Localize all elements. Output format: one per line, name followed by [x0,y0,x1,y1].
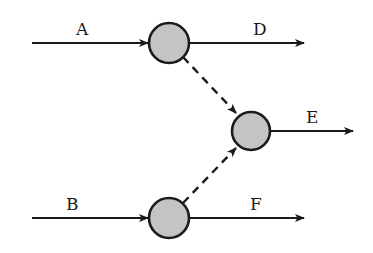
dashed-edge-top-to-middle [183,57,236,113]
flow-diagram: A D B F E [0,0,373,253]
edge-e-label: E [306,107,318,127]
node-top [149,23,189,63]
edge-d: D [189,19,304,43]
node-middle [232,112,270,150]
edge-a-label: A [75,19,89,39]
edge-d-label: D [253,19,267,39]
edge-f: F [189,194,304,218]
edge-e: E [270,107,353,131]
edge-b-label: B [66,194,79,214]
dashed-edge-bottom-to-middle [183,148,236,203]
node-bottom [149,198,189,238]
edge-a: A [32,19,148,43]
edge-b: B [32,194,148,218]
edge-f-label: F [250,194,262,214]
